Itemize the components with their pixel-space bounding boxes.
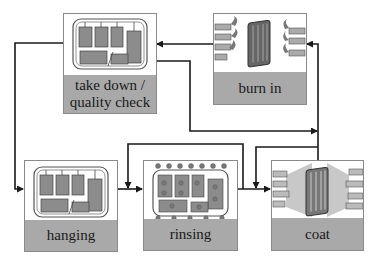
step-label: hanging — [25, 220, 117, 251]
rack-icon — [64, 14, 156, 76]
step-coat: coat — [271, 160, 364, 251]
step-hanging: hanging — [24, 160, 118, 252]
process-diagram: take down / quality check — [0, 0, 375, 264]
step-rinsing: rinsing — [143, 160, 238, 251]
step-label: burn in — [214, 72, 306, 104]
flow-coat-to-burnin — [307, 44, 318, 160]
rinse-spray-icon — [144, 161, 237, 221]
step-label: take down / quality check — [64, 75, 156, 113]
step-burn-in: burn in — [213, 13, 307, 105]
label-line-2: quality check — [70, 94, 150, 111]
step-take-down: take down / quality check — [63, 13, 157, 114]
spray-coat-icon — [272, 161, 363, 221]
step-label: rinsing — [144, 219, 237, 250]
step-label: coat — [272, 218, 363, 250]
rack-icon — [25, 161, 117, 221]
oven-flame-icon — [214, 14, 306, 74]
label-line-1: take down / — [75, 77, 145, 94]
